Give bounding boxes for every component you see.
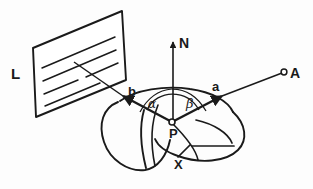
figure-container: L N A a b P X α β <box>0 0 313 189</box>
label-vector-b: b <box>128 85 136 98</box>
label-normal-vector: N <box>179 36 189 50</box>
label-light-plane: L <box>11 66 20 81</box>
light-source-plane <box>33 11 126 117</box>
viewpoint-marker <box>281 69 287 75</box>
label-angle-beta: β <box>186 97 194 110</box>
label-vector-a: a <box>212 80 219 93</box>
label-viewpoint: A <box>290 66 300 80</box>
label-angle-alpha: α <box>148 98 156 110</box>
surface-label-leader <box>178 145 234 157</box>
label-surface-point: P <box>169 127 178 140</box>
label-surface: X <box>174 158 183 171</box>
diagram-canvas <box>0 0 313 189</box>
surface-point-marker <box>169 119 175 125</box>
plane-outline <box>33 11 126 117</box>
